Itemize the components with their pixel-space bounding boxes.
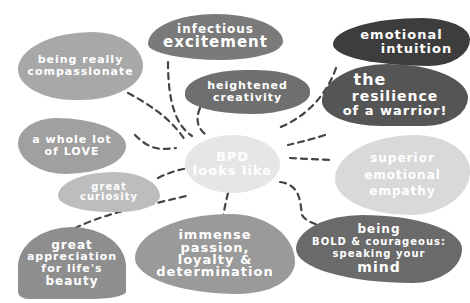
node-text: compassionate	[27, 66, 133, 78]
node-text: excitement	[163, 35, 268, 51]
node-text: empathy	[369, 183, 435, 200]
node-text: determination	[156, 266, 273, 278]
node-text: being	[358, 223, 401, 237]
node-great-appreciation-for-lifes-beauty: great appreciation for life's beauty	[18, 227, 126, 299]
node-text: superior	[370, 150, 435, 167]
center-text: BPD	[216, 150, 249, 164]
node-text: emotional	[360, 28, 442, 42]
node-text: mind	[357, 259, 400, 275]
node-text: emotional	[364, 167, 441, 184]
node-text: beauty	[46, 275, 99, 288]
node-text: of LOVE	[45, 146, 100, 158]
node-text: for life's	[41, 263, 102, 275]
center-node-bpd-looks-like: BPD looks like	[185, 135, 280, 193]
node-text: BOLD & courageous:	[312, 236, 446, 248]
node-text: curiosity	[80, 192, 138, 203]
node-text: intuition	[351, 42, 453, 56]
node-text: resilience	[352, 89, 438, 104]
node-text: speaking your	[333, 248, 426, 260]
node-heightened-creativity: heightened creativity	[185, 70, 310, 114]
node-text: creativity	[213, 92, 282, 104]
mind-map: being really compassionate infectious ex…	[0, 0, 470, 303]
center-text: looks like	[193, 164, 272, 178]
node-text: of a warrior!	[343, 104, 448, 118]
node-text: the	[354, 72, 387, 89]
